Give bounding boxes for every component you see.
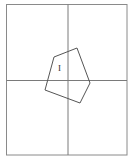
- frame-border: [7, 5, 128, 156]
- shape-label: I: [58, 64, 61, 73]
- diagram-canvas: [0, 0, 130, 158]
